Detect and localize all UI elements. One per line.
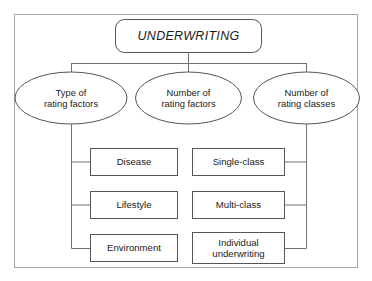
leaf-node-shape-lifestyle[interactable] [91,192,178,219]
leaf-node-shape-multi-class[interactable] [193,192,285,219]
branch-node-shape-type-of-rating-factors[interactable] [15,72,127,124]
leaf-node-shape-single-class[interactable] [193,149,285,176]
leaf-node-shape-environment[interactable] [91,235,178,262]
underwriting-diagram: UNDERWRITING Type of rating factors Numb… [0,0,372,281]
branch-node-shape-number-of-rating-classes[interactable] [254,72,360,124]
branch-node-shape-number-of-rating-factors[interactable] [136,72,242,124]
root-node-shape[interactable] [116,20,262,53]
diagram-canvas [0,0,372,281]
leaf-node-shape-individual-underwriting[interactable] [193,233,285,264]
leaf-node-shape-disease[interactable] [91,149,178,176]
